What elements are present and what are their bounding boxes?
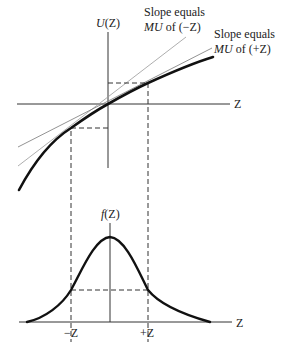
dashed-guide-minus (71, 128, 108, 342)
tangent-minus-label-line1: Slope equals (144, 5, 205, 19)
tangent-plus-z (18, 48, 212, 147)
tick-minus-z: −Z (64, 326, 78, 340)
f-y-axis-label: f(Z) (101, 207, 120, 221)
tick-plus-z: +Z (140, 326, 154, 340)
diagram: U(Z) Z Slope equals MU of (−Z) Slope equ… (0, 0, 286, 346)
tangent-minus-label-line2: MU of (−Z) (143, 20, 201, 34)
u-y-axis-label: U(Z) (96, 16, 120, 30)
tangent-plus-label-line2: MU of (+Z) (213, 42, 271, 56)
utility-curve (19, 57, 213, 190)
tangent-minus-z (18, 37, 186, 166)
u-x-axis-label: Z (234, 97, 241, 111)
utility-panel: U(Z) Z Slope equals MU of (−Z) Slope equ… (17, 5, 275, 342)
f-x-axis-label: Z (236, 316, 243, 330)
density-curve (27, 237, 210, 322)
tangent-plus-label-line1: Slope equals (214, 27, 275, 41)
density-panel: f(Z) Z −Z +Z (19, 207, 243, 340)
